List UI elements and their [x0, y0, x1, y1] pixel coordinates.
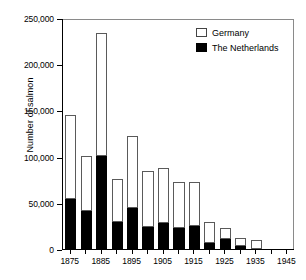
x-axis-tick: [70, 250, 71, 254]
x-axis-tick: [209, 250, 210, 254]
bar-1895: [127, 136, 138, 249]
y-axis-tick-label: 0: [49, 245, 54, 255]
y-axis-tick-label: 150,000: [24, 106, 54, 116]
bar-segment-germany: [204, 222, 215, 242]
x-axis-tick: [85, 250, 86, 254]
x-axis-tick-label: 1905: [153, 256, 172, 266]
bar-segment-netherlands: [235, 246, 246, 249]
y-axis-tick-label: 50,000: [29, 199, 54, 209]
x-axis-tick: [286, 250, 287, 254]
bar-segment-netherlands: [173, 228, 184, 249]
legend-swatch-germany-icon: [196, 28, 207, 37]
bar-segment-netherlands: [142, 227, 153, 249]
bar-segment-germany: [112, 179, 123, 222]
x-axis-tick: [147, 250, 148, 254]
bar-1900: [142, 171, 153, 249]
bar-segment-germany: [127, 136, 138, 208]
legend-label-germany: Germany: [212, 28, 249, 38]
bar-segment-netherlands: [81, 211, 92, 249]
bar-segment-germany: [173, 182, 184, 227]
bar-1910: [173, 182, 184, 249]
bar-1885: [96, 33, 107, 249]
x-axis-tick: [240, 250, 241, 254]
x-axis-tick: [255, 250, 256, 254]
bar-1920: [204, 222, 215, 249]
legend-item-germany: Germany: [196, 26, 279, 39]
bar-segment-netherlands: [96, 156, 107, 249]
x-axis-tick-label: 1875: [60, 256, 79, 266]
x-axis-tick-label: 1895: [122, 256, 141, 266]
bar-1930: [235, 238, 246, 249]
legend-swatch-netherlands-icon: [196, 43, 207, 52]
bar-segment-germany: [158, 168, 169, 223]
bar-segment-germany: [235, 238, 246, 246]
chart-legend: Germany The Netherlands: [196, 26, 279, 56]
x-axis-tick-label: 1935: [246, 256, 265, 266]
bar-segment-germany: [251, 240, 262, 249]
x-axis-tick: [116, 250, 117, 254]
bar-segment-netherlands: [127, 208, 138, 249]
legend-label-netherlands: The Netherlands: [212, 43, 279, 53]
bar-1905: [158, 168, 169, 249]
bar-segment-netherlands: [112, 222, 123, 249]
x-axis-tick-label: 1925: [215, 256, 234, 266]
x-axis-tick-label: 1915: [184, 256, 203, 266]
bar-1925: [220, 228, 231, 249]
bar-1875: [65, 115, 76, 249]
bar-segment-germany: [65, 115, 76, 199]
bar-1890: [112, 179, 123, 249]
y-axis-tick-label: 100,000: [24, 153, 54, 163]
bar-segment-netherlands: [158, 223, 169, 249]
legend-item-netherlands: The Netherlands: [196, 41, 279, 54]
y-axis-tick-label: 250,000: [24, 14, 54, 24]
x-axis-tick: [224, 250, 225, 254]
x-axis-tick: [132, 250, 133, 254]
x-axis-tick-label: 1885: [91, 256, 110, 266]
bar-segment-netherlands: [65, 199, 76, 249]
bar-segment-netherlands: [220, 239, 231, 249]
x-axis-tick: [193, 250, 194, 254]
bar-1935: [251, 240, 262, 249]
x-axis-tick: [101, 250, 102, 254]
bar-segment-netherlands: [189, 226, 200, 249]
y-axis-tick: [57, 250, 62, 251]
bar-segment-germany: [220, 228, 231, 239]
x-axis-tick: [271, 250, 272, 254]
bar-segment-netherlands: [204, 243, 215, 249]
x-axis-tick: [163, 250, 164, 254]
salmon-catch-chart: Number of salmon 050,000100,000150,00020…: [0, 0, 306, 280]
y-axis-tick-label: 200,000: [24, 60, 54, 70]
bar-segment-germany: [96, 33, 107, 156]
bar-1915: [189, 182, 200, 249]
bar-1880: [81, 156, 92, 249]
x-axis-tick-label: 1945: [277, 256, 296, 266]
x-axis-tick: [178, 250, 179, 254]
bar-segment-germany: [142, 171, 153, 226]
bar-segment-germany: [81, 156, 92, 211]
bar-segment-germany: [189, 182, 200, 226]
